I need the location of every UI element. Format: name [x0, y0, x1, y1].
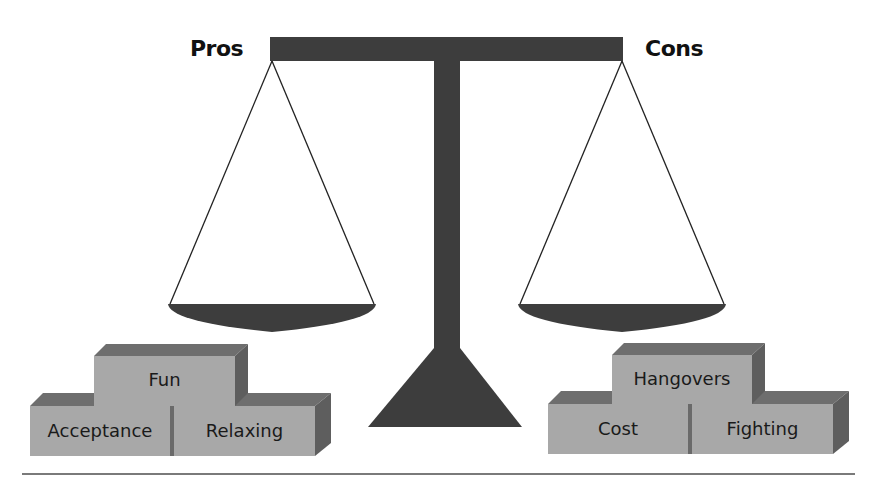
balance-scale-diagram: Pros Cons Fun Acceptance Relaxing Hangov… — [0, 0, 872, 487]
block-label-cost: Cost — [548, 420, 688, 438]
scale-graphic — [0, 0, 872, 487]
block-label-relaxing: Relaxing — [174, 422, 315, 440]
right-pan-strings — [520, 61, 724, 304]
block-label-fun: Fun — [94, 371, 235, 389]
right-pan — [518, 304, 726, 332]
left-pan — [168, 304, 376, 332]
scale-base — [368, 348, 522, 427]
block-label-hangovers: Hangovers — [612, 370, 752, 388]
pros-label: Pros — [190, 38, 243, 60]
block-label-acceptance: Acceptance — [30, 422, 170, 440]
cons-label: Cons — [645, 38, 703, 60]
scale-post — [434, 61, 460, 349]
scale-beam — [270, 37, 623, 61]
block-label-fighting: Fighting — [692, 420, 833, 438]
left-pan-strings — [170, 61, 374, 304]
bottom-divider — [22, 473, 855, 475]
